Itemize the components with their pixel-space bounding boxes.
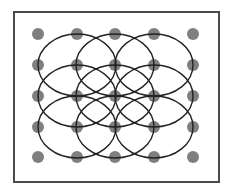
grid-dot bbox=[71, 151, 83, 163]
grid-dot bbox=[32, 28, 44, 40]
grid-dot bbox=[32, 151, 44, 163]
grid-dot bbox=[109, 151, 121, 163]
grid-dot bbox=[187, 28, 199, 40]
coverage-diagram bbox=[0, 0, 230, 191]
grid-dot bbox=[148, 151, 160, 163]
grid-dot bbox=[187, 151, 199, 163]
